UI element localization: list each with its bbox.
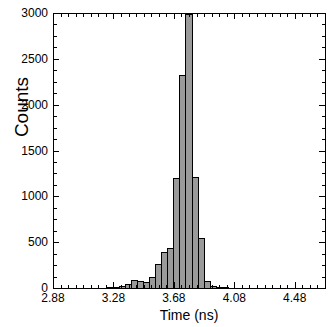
histogram-bar [204, 282, 210, 288]
x-axis-title: Time (ns) [53, 307, 325, 323]
histogram-bar [119, 287, 125, 288]
y-tick-label: 2500 [8, 53, 48, 65]
x-tick-label: 3.28 [88, 292, 138, 304]
y-tick-label: 500 [8, 236, 48, 248]
histogram-bar [198, 239, 204, 289]
histogram-bar [150, 278, 156, 288]
histogram-bar [113, 287, 119, 288]
y-axis-tick-labels: 050010001500200025003000 [0, 0, 48, 327]
histogram-bar [192, 178, 198, 288]
histogram-bar [210, 287, 216, 288]
histogram-bar [107, 287, 113, 288]
x-tick-label: 4.48 [270, 292, 320, 304]
histogram-bar [186, 15, 192, 288]
histogram-bar [126, 284, 132, 288]
histogram-bar [174, 178, 180, 288]
x-tick-label: 3.68 [149, 292, 199, 304]
y-tick-label: 1000 [8, 190, 48, 202]
histogram-figure: Counts 050010001500200025003000 2.883.28… [0, 0, 334, 327]
histogram-bar [180, 75, 186, 288]
x-tick-label: 4.08 [209, 292, 259, 304]
y-tick-label: 3000 [8, 7, 48, 19]
histogram-bar [168, 249, 174, 288]
plot-area [0, 0, 334, 327]
histogram-bar [156, 265, 162, 288]
x-tick-label: 2.88 [28, 292, 78, 304]
y-tick-label: 2000 [8, 99, 48, 111]
y-tick-label: 1500 [8, 145, 48, 157]
histogram-bar [138, 281, 144, 288]
histogram-bars [107, 15, 228, 288]
histogram-bar [162, 253, 168, 288]
